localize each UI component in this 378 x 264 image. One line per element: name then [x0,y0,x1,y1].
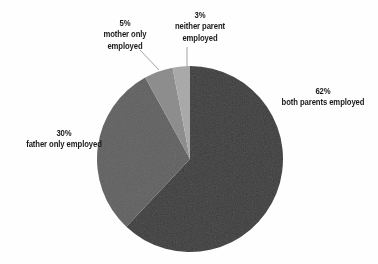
pie-label-both-parents-percent: 62% [272,86,373,97]
pie-label-both-parents-employed: 62% both parents employed [272,86,373,109]
pie-label-mother-only-employed: 5% mother only employed [87,18,162,52]
pie-label-both-parents-line1: both parents employed [272,97,373,108]
pie-label-mother-only-percent: 5% [87,18,162,29]
pie-label-neither-parent-line1: neither parent [158,21,243,32]
pie-label-mother-only-line1: mother only [87,29,162,40]
pie-label-father-only-line1: father only employed [11,139,118,150]
pie-label-neither-parent-employed: 3% neither parent employed [158,10,243,44]
pie-label-father-only-employed: 30% father only employed [11,128,118,151]
pie-label-mother-only-line2: employed [87,41,162,52]
pie-label-neither-parent-line2: employed [158,33,243,44]
pie-label-father-only-percent: 30% [11,128,118,139]
chart-canvas: ....... [0,0,378,264]
pie-label-neither-parent-percent: 3% [158,10,243,21]
